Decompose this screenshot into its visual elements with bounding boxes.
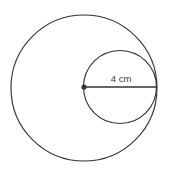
geometry-figure: 4 cm (0, 0, 169, 180)
geometry-canvas: 4 cm (0, 0, 169, 180)
diameter-label: 4 cm (111, 73, 132, 84)
center-point-marker (81, 84, 86, 89)
